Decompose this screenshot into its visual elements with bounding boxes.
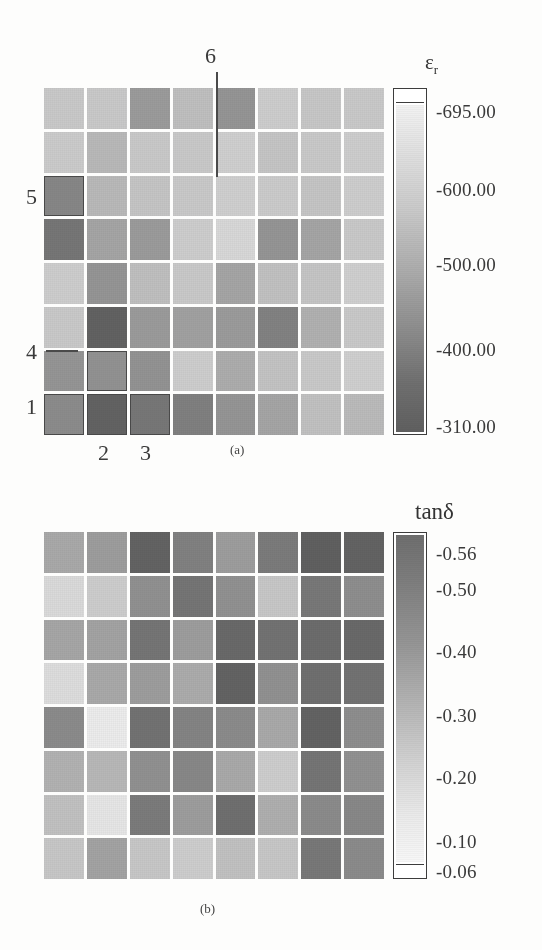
heatmap-cell: [344, 351, 384, 392]
heatmap-cell: [258, 176, 298, 217]
heatmap-cell: [301, 576, 341, 617]
heatmap-cell: [173, 132, 213, 173]
heatmap-cell: [258, 620, 298, 661]
heatmap-cell: [173, 88, 213, 129]
heatmap-cell: [130, 176, 170, 217]
heatmap-cell-highlighted: [44, 176, 84, 217]
colorbar-epsilon-r: [393, 88, 427, 435]
heatmap-cell: [216, 263, 256, 304]
heatmap-cell: [87, 663, 127, 704]
heatmap-cell: [87, 620, 127, 661]
heatmap-grid-tan-delta: [44, 532, 384, 879]
heatmap-cell: [130, 576, 170, 617]
heatmap-cell: [87, 751, 127, 792]
colorbar-tick-b-6: -0.06: [436, 862, 477, 881]
heatmap-cell: [87, 219, 127, 260]
heatmap-cell: [301, 620, 341, 661]
heatmap-cell: [44, 88, 84, 129]
heatmap-cell: [44, 663, 84, 704]
heatmap-cell: [301, 751, 341, 792]
heatmap-cell: [87, 838, 127, 879]
panel-b-caption: (b): [200, 902, 215, 915]
heatmap-cell: [130, 795, 170, 836]
heatmap-cell: [344, 88, 384, 129]
heatmap-cell: [44, 307, 84, 348]
heatmap-cell: [44, 795, 84, 836]
heatmap-cell: [87, 307, 127, 348]
heatmap-cell: [301, 795, 341, 836]
heatmap-cell: [173, 307, 213, 348]
heatmap-cell: [258, 219, 298, 260]
heatmap-cell: [44, 576, 84, 617]
heatmap-cell: [344, 576, 384, 617]
heatmap-cell: [173, 576, 213, 617]
heatmap-cell: [344, 532, 384, 573]
heatmap-cell: [258, 132, 298, 173]
heatmap-cell: [173, 532, 213, 573]
panel-a-caption: (a): [230, 443, 244, 456]
colorbar-tick-b-5: -0.10: [436, 832, 477, 851]
heatmap-cell: [130, 532, 170, 573]
heatmap-cell: [130, 620, 170, 661]
heatmap-cell: [216, 795, 256, 836]
heatmap-cell: [44, 620, 84, 661]
heatmap-cell: [44, 707, 84, 748]
heatmap-cell: [344, 620, 384, 661]
heatmap-cell: [173, 351, 213, 392]
heatmap-cell: [258, 351, 298, 392]
heatmap-cell: [87, 576, 127, 617]
heatmap-cell: [216, 576, 256, 617]
panel-b: tanδ -0.56 -0.50 -0.40 -0.30 -0.20 -0.10…: [0, 500, 542, 950]
heatmap-cell-highlighted: [44, 394, 84, 435]
heatmap-cell: [301, 307, 341, 348]
heatmap-cell: [173, 795, 213, 836]
heatmap-cell: [130, 307, 170, 348]
heatmap-cell: [130, 751, 170, 792]
heatmap-cell: [258, 532, 298, 573]
heatmap-cell: [130, 263, 170, 304]
heatmap-cell: [173, 751, 213, 792]
heatmap-cell: [301, 176, 341, 217]
heatmap-cell: [301, 219, 341, 260]
heatmap-cell: [344, 263, 384, 304]
heatmap-cell: [44, 132, 84, 173]
heatmap-cell: [44, 263, 84, 304]
heatmap-cell: [216, 88, 256, 129]
heatmap-cell: [216, 219, 256, 260]
colorbar-title-tan-delta: tanδ: [415, 500, 454, 523]
heatmap-cell: [173, 707, 213, 748]
heatmap-cell: [87, 132, 127, 173]
heatmap-cell: [344, 219, 384, 260]
leader-line-4: [46, 350, 78, 352]
heatmap-cell: [216, 176, 256, 217]
heatmap-cell: [87, 532, 127, 573]
heatmap-cell: [344, 707, 384, 748]
heatmap-cell: [87, 263, 127, 304]
heatmap-cell: [130, 838, 170, 879]
heatmap-cell: [216, 663, 256, 704]
colorbar-tick-a-4: -310.00: [436, 417, 496, 436]
heatmap-cell: [258, 663, 298, 704]
heatmap-cell: [344, 838, 384, 879]
heatmap-cell: [301, 394, 341, 435]
colorbar-tick-b-2: -0.40: [436, 642, 477, 661]
heatmap-cell: [301, 88, 341, 129]
heatmap-cell: [344, 663, 384, 704]
colorbar-tick-a-1: -600.00: [436, 180, 496, 199]
heatmap-cell: [258, 263, 298, 304]
heatmap-cell: [258, 707, 298, 748]
heatmap-cell: [344, 307, 384, 348]
heatmap-cell: [87, 176, 127, 217]
heatmap-cell: [258, 88, 298, 129]
heatmap-cell: [130, 88, 170, 129]
colorbar-tick-a-2: -500.00: [436, 255, 496, 274]
colorbar-tick-b-3: -0.30: [436, 706, 477, 725]
heatmap-cell: [301, 351, 341, 392]
panel-a: εr -695.00 -600.00 -500.00 -400.00 -310.…: [0, 0, 542, 500]
heatmap-cell: [44, 532, 84, 573]
heatmap-cell: [87, 795, 127, 836]
heatmap-cell: [44, 751, 84, 792]
heatmap-cell: [173, 394, 213, 435]
heatmap-cell: [258, 576, 298, 617]
heatmap-cell: [344, 132, 384, 173]
